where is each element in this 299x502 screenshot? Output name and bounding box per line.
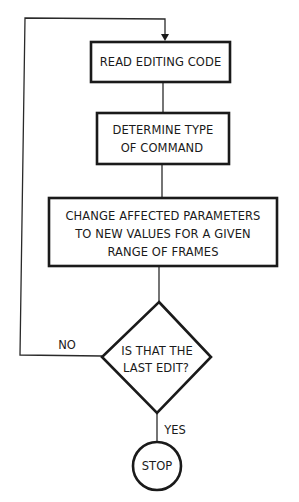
node-label: DETERMINE TYPE <box>113 123 214 137</box>
edge-label-no: NO <box>58 338 76 352</box>
flowchart-diagram: READ EDITING CODE DETERMINE TYPE OF COMM… <box>0 0 299 502</box>
node-label: READ EDITING CODE <box>100 55 222 69</box>
node-label: LAST EDIT? <box>123 361 189 375</box>
node-label: STOP <box>142 459 173 473</box>
node-label: IS THAT THE <box>121 344 193 358</box>
node-stop: STOP <box>133 442 181 490</box>
node-determine-type: DETERMINE TYPE OF COMMAND <box>97 113 229 164</box>
edge-label-yes: YES <box>163 423 186 437</box>
arrowhead-icon <box>161 34 169 41</box>
node-label: RANGE OF FRAMES <box>107 245 218 259</box>
node-label: TO NEW VALUES FOR A GIVEN <box>74 227 250 241</box>
node-decision-last-edit: IS THAT THE LAST EDIT? <box>102 302 211 413</box>
node-label: OF COMMAND <box>121 141 204 155</box>
node-label: CHANGE AFFECTED PARAMETERS <box>65 209 260 223</box>
node-change-parameters: CHANGE AFFECTED PARAMETERS TO NEW VALUES… <box>49 198 277 266</box>
node-read-editing-code: READ EDITING CODE <box>91 42 230 82</box>
